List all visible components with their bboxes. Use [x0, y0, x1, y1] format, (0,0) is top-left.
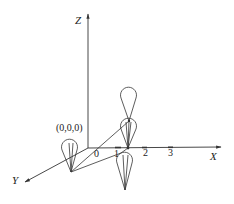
point-c	[128, 120, 130, 122]
z-axis-label: Z	[75, 14, 82, 26]
x-axis-label: X	[209, 150, 218, 162]
coordinate-diagram: Z X Y 0 1 2 3 (0,0,0)	[0, 0, 234, 204]
point-b	[127, 147, 130, 150]
y-axis-label: Y	[12, 174, 20, 186]
upper-cone	[120, 87, 136, 121]
origin-point-label: (0,0,0)	[56, 122, 83, 134]
left-cone	[62, 139, 78, 172]
x-axis	[88, 147, 221, 148]
tick-label-2: 2	[143, 147, 148, 158]
tick-label-1: 1	[114, 148, 119, 159]
tick-label-3: 3	[168, 147, 173, 158]
